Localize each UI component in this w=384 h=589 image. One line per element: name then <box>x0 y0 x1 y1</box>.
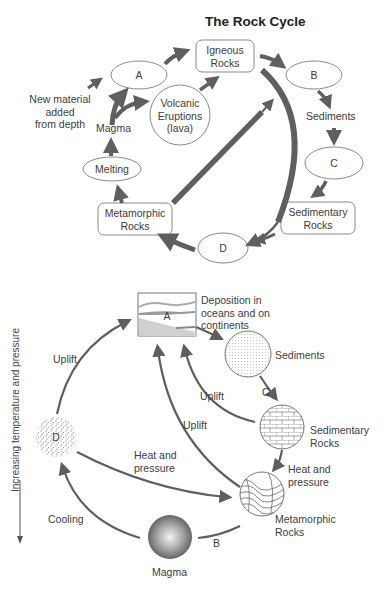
rock-cycle-diagram-canvas <box>0 0 384 589</box>
bottom-b-label: B <box>213 537 220 550</box>
arrow-magma-to-volcanic <box>115 102 142 118</box>
metamorphic-rocks-circle <box>238 472 286 518</box>
arrow-d-to-metamorphic <box>166 238 195 250</box>
top-sedimentary-label: Sedimentary Rocks <box>281 206 355 231</box>
volcanic-eruptions-label: Volcanic Eruptions (lava) <box>150 97 210 135</box>
sedimentary-rocks-circle <box>260 405 304 449</box>
arrow-b-to-sediments <box>318 91 328 103</box>
sediments-circle <box>225 331 271 377</box>
top-sediments-label: Sediments <box>306 110 356 123</box>
arrow-volcanic-to-igneous <box>200 80 214 90</box>
arrow-a-to-igneous <box>165 52 183 64</box>
bottom-metamorphic-label: Metamorphic Rocks <box>275 513 336 538</box>
uplift-mid-label: Uplift <box>183 419 207 432</box>
arrow-metamorphic-to-igneous-head <box>262 103 270 112</box>
igneous-rocks-label: Igneous Rocks <box>196 44 254 69</box>
top-c-label: C <box>305 157 363 170</box>
deposition-label: Deposition in oceans and on continents <box>201 294 270 332</box>
arrow-sedimentary-to-metamorphic <box>276 450 282 467</box>
uplift-left-label: Uplift <box>53 353 77 366</box>
arrow-magma-cooling-to-d <box>63 468 140 538</box>
bottom-c-label: C <box>262 386 270 399</box>
top-magma-label: Magma <box>96 122 131 135</box>
arrow-new-material-to-a <box>88 81 98 88</box>
cooling-label: Cooling <box>48 513 84 526</box>
top-a-label: A <box>111 69 167 82</box>
heat-pressure-mid-label: Heat and pressure <box>134 449 177 474</box>
top-b-label: B <box>286 69 342 82</box>
arrow-igneous-to-d-shaft <box>262 70 295 222</box>
top-metamorphic-label: Metamorphic Rocks <box>98 207 172 232</box>
bottom-a-label: A <box>158 310 176 323</box>
top-d-label: D <box>198 242 248 255</box>
bottom-sedimentary-label: Sedimentary Rocks <box>310 424 369 449</box>
bottom-d-label: D <box>48 431 64 444</box>
melting-label: Melting <box>83 163 141 176</box>
arrow-igneous-to-b <box>260 56 280 64</box>
heat-pressure-right-label: Heat and pressure <box>288 463 331 488</box>
bottom-sediments-label: Sediments <box>275 349 325 362</box>
new-material-label: New material added from depth <box>24 93 96 131</box>
arrow-uplift-left <box>57 322 126 414</box>
uplift-right-label: Uplift <box>200 390 224 403</box>
arrow-c-to-sedimentary <box>316 181 326 194</box>
bottom-magma-label: Magma <box>152 566 187 579</box>
magma-sphere <box>148 515 192 559</box>
temperature-pressure-axis-label: Increasing temperature and pressure <box>10 318 24 548</box>
arrow-metamorphic-to-melting <box>119 192 122 203</box>
